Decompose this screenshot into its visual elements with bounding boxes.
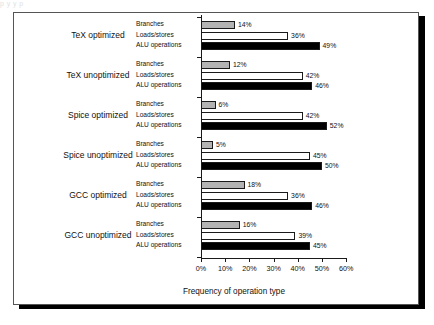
- series-label: Branches: [136, 179, 198, 190]
- bar-value-label: 42%: [306, 72, 320, 80]
- bar-value-label: 52%: [330, 122, 344, 130]
- bar-value-label: 39%: [298, 232, 312, 240]
- bar: [201, 152, 310, 160]
- x-axis-tick: [249, 258, 250, 262]
- bar-value-label: 46%: [315, 202, 329, 210]
- series-label: Loads/stores: [136, 190, 198, 201]
- x-axis-tick: [201, 258, 202, 262]
- x-axis-tick: [322, 258, 323, 262]
- bar-group: GCC unoptimizedBranchesLoads/storesALU o…: [14, 217, 418, 257]
- bar: [201, 192, 288, 200]
- y-axis-tick: [197, 137, 201, 138]
- series-label: Branches: [136, 19, 198, 30]
- bar: [201, 82, 312, 90]
- bar: [201, 32, 288, 40]
- series-label: Loads/stores: [136, 150, 198, 161]
- series-label: ALU operations: [136, 40, 198, 51]
- series-label-column: BranchesLoads/storesALU operations: [136, 19, 198, 51]
- bar: [201, 202, 312, 210]
- series-label: ALU operations: [136, 120, 198, 131]
- bar-value-label: 45%: [313, 152, 327, 160]
- x-axis-tick-label: 60%: [331, 264, 361, 273]
- series-label-column: BranchesLoads/storesALU operations: [136, 219, 198, 251]
- bar-value-label: 5%: [216, 141, 226, 149]
- bar: [201, 162, 322, 170]
- bar-chart-plot-area: TeX optimizedBranchesLoads/storesALU ope…: [14, 13, 418, 304]
- bar: [201, 72, 303, 80]
- bar: [201, 61, 230, 69]
- y-axis-tick: [197, 57, 201, 58]
- series-label: Branches: [136, 219, 198, 230]
- bar: [201, 42, 320, 50]
- series-label: Loads/stores: [136, 110, 198, 121]
- figure-frame: TeX optimizedBranchesLoads/storesALU ope…: [13, 12, 419, 305]
- series-label-column: BranchesLoads/storesALU operations: [136, 99, 198, 131]
- series-label: ALU operations: [136, 160, 198, 171]
- series-label: Loads/stores: [136, 30, 198, 41]
- series-label: Branches: [136, 99, 198, 110]
- series-label-column: BranchesLoads/storesALU operations: [136, 139, 198, 171]
- bar-group: GCC optimizedBranchesLoads/storesALU ope…: [14, 177, 418, 217]
- bar-group: TeX optimizedBranchesLoads/storesALU ope…: [14, 17, 418, 57]
- bar-value-label: 42%: [306, 112, 320, 120]
- series-label: Branches: [136, 59, 198, 70]
- x-axis-tick: [225, 258, 226, 262]
- bar-group: TeX unoptimizedBranchesLoads/storesALU o…: [14, 57, 418, 97]
- x-axis-title: Frequency of operation type: [161, 287, 307, 296]
- series-label: ALU operations: [136, 80, 198, 91]
- bar-value-label: 50%: [325, 162, 339, 170]
- bar: [201, 181, 245, 189]
- bar-group: Spice unoptimizedBranchesLoads/storesALU…: [14, 137, 418, 177]
- bar-value-label: 45%: [313, 242, 327, 250]
- bar: [201, 101, 216, 109]
- bar-value-label: 36%: [291, 32, 305, 40]
- bar: [201, 232, 295, 240]
- x-axis-tick: [274, 258, 275, 262]
- bar: [201, 21, 235, 29]
- bar-value-label: 36%: [291, 192, 305, 200]
- bar-value-label: 16%: [243, 221, 257, 229]
- bar-value-label: 46%: [315, 82, 329, 90]
- bar: [201, 242, 310, 250]
- bar-value-label: 6%: [219, 101, 229, 109]
- bar: [201, 112, 303, 120]
- bar: [201, 122, 327, 130]
- series-label: Loads/stores: [136, 70, 198, 81]
- bar: [201, 221, 240, 229]
- y-axis-tick: [197, 97, 201, 98]
- y-axis-tick: [197, 17, 201, 18]
- bar-value-label: 12%: [233, 61, 247, 69]
- series-label: ALU operations: [136, 240, 198, 251]
- bar-value-label: 18%: [248, 181, 262, 189]
- series-label: Loads/stores: [136, 230, 198, 241]
- bar-group: Spice optimizedBranchesLoads/storesALU o…: [14, 97, 418, 137]
- bar-value-label: 14%: [238, 21, 252, 29]
- page-top-bleed-text: p y y p: [0, 0, 434, 10]
- y-axis-tick: [197, 217, 201, 218]
- bar: [201, 141, 213, 149]
- bar-value-label: 49%: [323, 42, 337, 50]
- series-label: Branches: [136, 139, 198, 150]
- series-label: ALU operations: [136, 200, 198, 211]
- series-label-column: BranchesLoads/storesALU operations: [136, 59, 198, 91]
- x-axis-tick: [298, 258, 299, 262]
- y-axis-tick: [197, 177, 201, 178]
- series-label-column: BranchesLoads/storesALU operations: [136, 179, 198, 211]
- x-axis-tick: [346, 258, 347, 262]
